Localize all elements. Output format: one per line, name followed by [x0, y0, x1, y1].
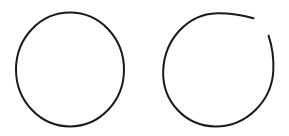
drawing-canvas: [0, 0, 289, 136]
two-circles-figure: [0, 0, 289, 136]
